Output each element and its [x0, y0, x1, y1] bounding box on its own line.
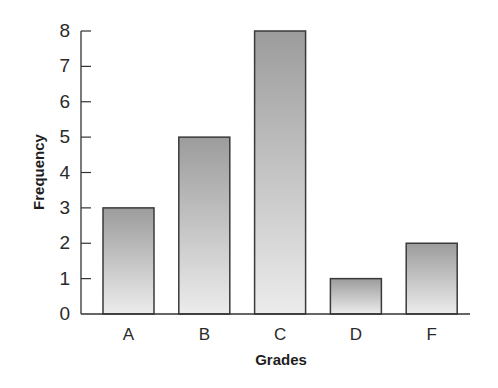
bar-b	[179, 137, 230, 314]
x-axis-label: Grades	[255, 351, 307, 368]
bar-d	[330, 279, 381, 314]
y-tick-label: 6	[59, 91, 70, 112]
x-tick-label: F	[427, 325, 437, 344]
y-tick-labels: 012345678	[59, 20, 70, 324]
bar-chart: 012345678 ABCDF	[0, 0, 498, 388]
bar-a	[103, 208, 154, 314]
y-tick-label: 7	[59, 55, 70, 76]
bars-group	[103, 31, 457, 314]
x-tick-label: C	[274, 325, 286, 344]
x-tick-labels: ABCDF	[123, 325, 437, 344]
x-tick-label: A	[123, 325, 135, 344]
y-tick-label: 3	[59, 197, 70, 218]
y-axis-label: Frequency	[30, 134, 47, 210]
bar-c	[255, 31, 306, 314]
y-tick-label: 8	[59, 20, 70, 41]
y-tick-label: 5	[59, 126, 70, 147]
y-tick-label: 1	[59, 268, 70, 289]
x-tick-label: B	[199, 325, 210, 344]
y-tick-label: 0	[59, 303, 70, 324]
y-tick-label: 2	[59, 232, 70, 253]
x-tick-label: D	[350, 325, 362, 344]
y-tick-label: 4	[59, 162, 70, 183]
bar-f	[406, 243, 457, 314]
